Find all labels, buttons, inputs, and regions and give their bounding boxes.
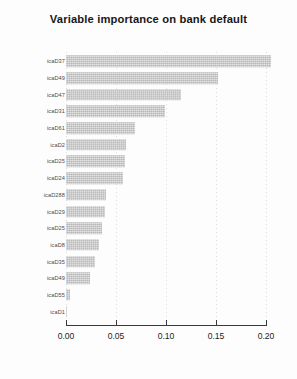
y-axis-label-icaD288: icaD288 (44, 192, 65, 198)
x-tick-0.15 (216, 320, 217, 326)
y-axis-label-icaD31: icaD31 (47, 108, 65, 114)
y-axis-label-icaD49: icaD49 (47, 275, 65, 281)
x-tick-0.00 (66, 320, 67, 326)
bar-icaD55 (66, 289, 70, 301)
bar-icaD25 (66, 222, 102, 234)
bar-icaD1 (66, 306, 67, 318)
x-tick-label-0.10: 0.10 (158, 331, 175, 341)
bar-row: icaD288 (0, 187, 297, 204)
bar-icaD31 (66, 106, 165, 118)
y-axis-label-icaD29: icaD29 (47, 209, 65, 215)
bar-icaD8 (66, 239, 99, 251)
bar-row: icaD29 (0, 203, 297, 220)
bar-row: icaD25 (0, 220, 297, 237)
bar-icaD37 (66, 56, 271, 68)
bar-row: icaD49 (0, 270, 297, 287)
bar-row: icaD55 (0, 287, 297, 304)
bar-icaD288 (66, 189, 106, 201)
y-axis-label-icaD49: icaD49 (47, 75, 65, 81)
bar-icaD29 (66, 206, 105, 218)
bar-icaD47 (66, 89, 181, 101)
bar-icaD61 (66, 122, 135, 134)
bar-row: icaD49 (0, 70, 297, 87)
bar-row: icaD8 (0, 237, 297, 254)
bar-icaD24 (66, 172, 123, 184)
bar-row: icaD47 (0, 86, 297, 103)
y-axis-label-icaD61: icaD61 (47, 125, 65, 131)
x-tick-0.10 (166, 320, 167, 326)
bar-row: icaD31 (0, 103, 297, 120)
bar-icaD25 (66, 156, 125, 168)
x-tick-label-0.15: 0.15 (208, 331, 225, 341)
y-axis-label-icaD1: icaD1 (50, 309, 65, 315)
y-axis-label-icaD2: icaD2 (50, 142, 65, 148)
bar-row: icaD37 (0, 53, 297, 70)
y-axis-label-icaD8: icaD8 (50, 242, 65, 248)
y-axis-label-icaD47: icaD47 (47, 92, 65, 98)
bar-icaD49 (66, 72, 218, 84)
bar-row: icaD1 (0, 303, 297, 320)
bar-row: icaD25 (0, 153, 297, 170)
x-tick-label-0.00: 0.00 (58, 331, 75, 341)
bar-icaD2 (66, 139, 126, 151)
bar-chart-plot-area: icaD37icaD49icaD47icaD31icaD61icaD2icaD2… (0, 0, 297, 379)
x-tick-0.20 (266, 320, 267, 326)
bar-row: icaD61 (0, 120, 297, 137)
bar-row: icaD35 (0, 253, 297, 270)
y-axis-label-icaD25: icaD25 (47, 158, 65, 164)
x-tick-0.05 (116, 320, 117, 326)
x-tick-label-0.20: 0.20 (258, 331, 275, 341)
x-tick-label-0.05: 0.05 (108, 331, 125, 341)
y-axis-label-icaD55: icaD55 (47, 292, 65, 298)
bar-icaD35 (66, 256, 95, 268)
y-axis-label-icaD24: icaD24 (47, 175, 65, 181)
bar-icaD49 (66, 273, 90, 285)
bar-row: icaD24 (0, 170, 297, 187)
bar-row: icaD2 (0, 136, 297, 153)
y-axis-label-icaD37: icaD37 (47, 58, 65, 64)
y-axis-label-icaD25: icaD25 (47, 225, 65, 231)
y-axis-label-icaD35: icaD35 (47, 259, 65, 265)
